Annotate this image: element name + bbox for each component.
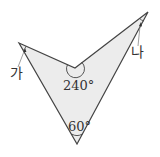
diagram-canvas: 가 나 240° 60° xyxy=(0,0,160,157)
label-bottom-angle: 60° xyxy=(68,119,91,134)
label-na: 나 xyxy=(131,44,144,60)
label-ga: 가 xyxy=(10,65,23,81)
label-reflex-angle: 240° xyxy=(63,78,94,93)
